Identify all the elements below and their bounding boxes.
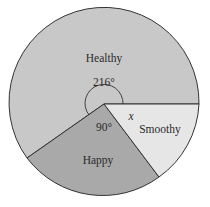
- label-happy: Happy: [83, 154, 114, 167]
- label-smoothy: Smoothy: [139, 123, 181, 136]
- label-angle-x: x: [127, 110, 134, 122]
- label-angle-90: 90°: [96, 121, 113, 133]
- label-angle-216: 216°: [93, 76, 115, 88]
- pie-chart: Healthy 216° 90° x Smoothy Happy: [0, 0, 210, 207]
- label-healthy: Healthy: [86, 52, 123, 65]
